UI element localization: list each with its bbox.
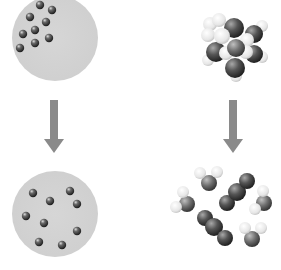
- left-down-arrow-icon: [44, 100, 64, 153]
- atom: [58, 241, 66, 249]
- right-down-arrow-icon: [223, 100, 243, 153]
- atom: [40, 219, 48, 227]
- atom: [16, 44, 24, 52]
- linear-molecule: [197, 210, 233, 246]
- left-after-panel: [12, 171, 98, 257]
- atom: [45, 34, 53, 42]
- bent-molecule: [170, 186, 195, 213]
- diagram-canvas: [0, 0, 281, 270]
- atom: [48, 6, 56, 14]
- bent-molecule: [194, 166, 223, 191]
- atom: [31, 26, 39, 34]
- atom: [42, 18, 50, 26]
- right-before-cluster: [201, 13, 268, 82]
- atom: [22, 212, 30, 220]
- atom: [26, 13, 34, 21]
- atom: [73, 200, 81, 208]
- bent-molecule: [239, 222, 267, 247]
- atom: [19, 30, 27, 38]
- atom: [29, 189, 37, 197]
- atom: [31, 39, 39, 47]
- atom: [36, 1, 44, 9]
- atom: [46, 197, 54, 205]
- atom: [35, 238, 43, 246]
- atom: [73, 227, 81, 235]
- bent-molecule: [249, 185, 272, 215]
- linear-molecule: [219, 173, 255, 211]
- atom: [66, 187, 74, 195]
- left-before-panel: [12, 0, 98, 81]
- right-after-molecules: [170, 166, 272, 247]
